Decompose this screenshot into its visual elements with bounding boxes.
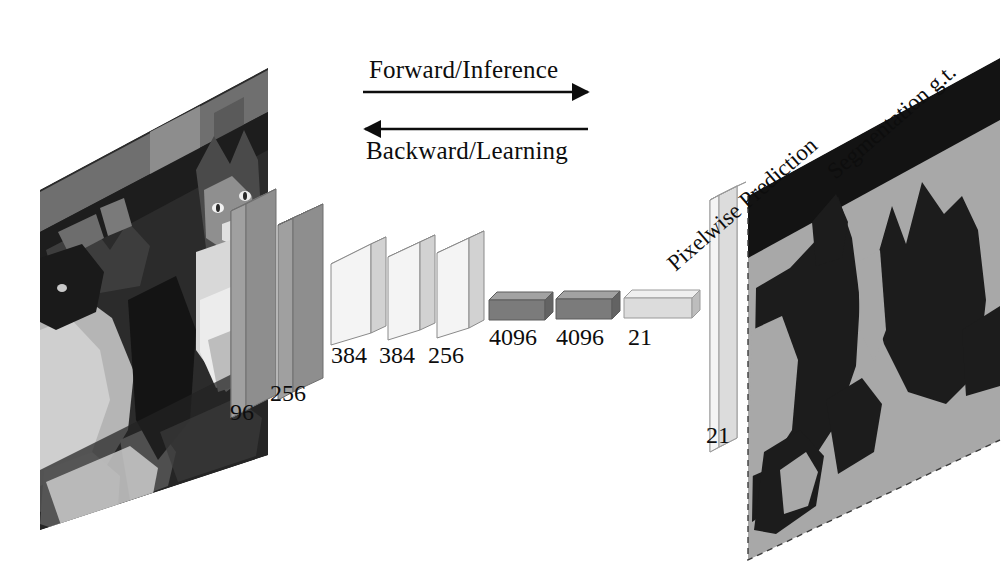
- layer-block-fc7: [556, 291, 620, 319]
- layer-block-conv5: [437, 231, 484, 338]
- forward-inference-label: Forward/Inference: [369, 57, 558, 82]
- layer-block-fc6: [489, 292, 553, 320]
- layer-label-conv2: 256: [270, 381, 306, 405]
- layer-label-score: 21: [628, 325, 652, 349]
- layer-label-conv3: 384: [331, 343, 367, 367]
- layer-label-fc6: 4096: [489, 325, 537, 349]
- backward-learning-label: Backward/Learning: [366, 138, 568, 163]
- flow-arrows: [363, 92, 588, 129]
- layer-label-conv4: 384: [379, 343, 415, 367]
- layer-label-conv1: 96: [230, 400, 254, 424]
- prediction-depth-label: 21: [706, 423, 730, 447]
- layer-label-conv5: 256: [428, 343, 464, 367]
- diagram-canvas: [0, 0, 1003, 583]
- layer-block-conv3: [331, 237, 386, 345]
- fcn-architecture-figure: Forward/Inference Backward/Learning 96 2…: [0, 0, 1003, 583]
- layer-block-score: [624, 290, 700, 318]
- layer-block-conv2: [278, 204, 323, 400]
- layer-block-conv4: [388, 235, 435, 340]
- layer-label-fc7: 4096: [556, 325, 604, 349]
